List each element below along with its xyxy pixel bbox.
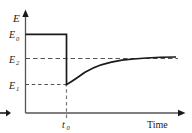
svg-text:0: 0 bbox=[67, 124, 71, 131]
svg-text:E: E bbox=[8, 80, 15, 91]
x-axis-title: Time bbox=[147, 119, 168, 130]
svg-text:E: E bbox=[8, 54, 15, 65]
svg-text:2: 2 bbox=[16, 59, 20, 66]
y-tick-label-e0: E 0 bbox=[8, 29, 20, 42]
energy-vs-time-chart: E E 0 E 2 E 1 t 0 Time bbox=[0, 0, 192, 133]
y-axis-title: E bbox=[12, 12, 20, 24]
svg-text:E: E bbox=[8, 29, 15, 40]
y-tick-label-e1: E 1 bbox=[8, 80, 19, 93]
left-edge-arrow-icon bbox=[0, 110, 11, 117]
x-axis bbox=[26, 110, 186, 116]
y-tick-label-e2: E 2 bbox=[8, 54, 20, 67]
y-axis bbox=[22, 10, 28, 114]
x-tick-label-t0: t 0 bbox=[62, 119, 71, 131]
svg-text:0: 0 bbox=[16, 35, 20, 42]
svg-text:1: 1 bbox=[16, 85, 19, 92]
data-curve bbox=[26, 34, 177, 84]
chart-canvas: E E 0 E 2 E 1 t 0 Time bbox=[0, 0, 192, 133]
svg-text:t: t bbox=[62, 119, 65, 130]
